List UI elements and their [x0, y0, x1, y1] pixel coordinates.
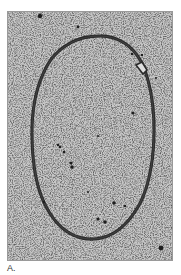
- panel-label: A.: [7, 263, 16, 274]
- micrograph-svg: [8, 12, 173, 261]
- micrograph-image: [7, 11, 173, 261]
- figure-panel: A.: [0, 0, 181, 275]
